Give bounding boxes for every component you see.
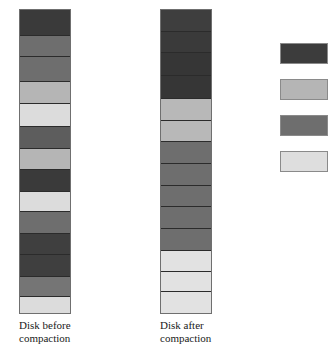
disk-block-5 [161,99,211,121]
disk-block-9 [20,192,70,212]
legend-swatch-light-gray [280,79,328,100]
disk-block-10 [161,207,211,229]
caption-disk-after-line2: compaction [160,332,270,345]
disk-after-compaction-column [160,9,212,314]
disk-block-14 [20,297,70,313]
disk-block-14 [161,292,211,313]
disk-block-11 [161,229,211,251]
disk-block-5 [20,104,70,127]
caption-disk-after-line1: Disk after [160,319,270,332]
legend [280,43,328,187]
legend-swatch-very-dark-gray [280,43,328,64]
legend-swatch-medium-gray [280,115,328,136]
disk-block-7 [161,142,211,164]
disk-block-7 [20,149,70,170]
disk-block-9 [161,186,211,208]
disk-block-2 [20,36,70,57]
caption-disk-before: Disk before compaction [19,319,129,345]
disk-block-12 [161,251,211,272]
disk-block-4 [20,82,70,105]
caption-disk-before-line1: Disk before [19,319,129,332]
disk-block-3 [161,53,211,76]
disk-block-1 [20,10,70,36]
disk-block-4 [161,76,211,99]
disk-block-2 [161,32,211,54]
disk-block-8 [161,164,211,186]
disk-block-8 [20,170,70,192]
disk-block-12 [20,255,70,277]
disk-before-compaction-column [19,9,71,314]
legend-item [280,115,328,136]
disk-block-3 [20,57,70,82]
disk-block-6 [161,121,211,143]
legend-item [280,151,328,172]
disk-block-6 [20,127,70,149]
disk-block-10 [20,212,70,234]
disk-block-11 [20,234,70,256]
disk-compaction-figure: Disk before compaction Disk after compac… [0,0,333,360]
legend-swatch-very-light-gray [280,151,328,172]
caption-disk-after: Disk after compaction [160,319,270,345]
disk-block-13 [20,277,70,297]
legend-item [280,79,328,100]
disk-block-13 [161,272,211,293]
legend-item [280,43,328,64]
disk-block-1 [161,10,211,32]
caption-disk-before-line2: compaction [19,332,129,345]
